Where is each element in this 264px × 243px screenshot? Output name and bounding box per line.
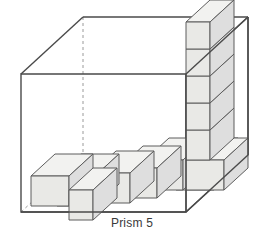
cube-front-face [31, 176, 69, 206]
cube-front-face [186, 103, 210, 130]
figure-caption: Prism 5 [0, 216, 264, 230]
cube-front-face [186, 22, 210, 49]
cube-front-face [186, 130, 210, 160]
cube-front-face [186, 76, 210, 103]
cube-front-face [186, 160, 224, 190]
figure-caption-text: Prism 5 [111, 216, 153, 230]
prism-figure [0, 0, 264, 243]
